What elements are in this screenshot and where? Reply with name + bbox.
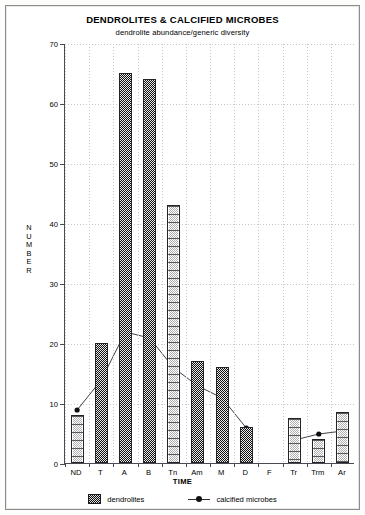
y-axis-title: NUMBER [24,224,34,276]
x-gridline [138,44,139,463]
bar-t [95,343,108,463]
x-gridline [210,44,211,463]
y-axis-tick-label: 60 [36,100,58,109]
bar-tr [288,418,301,463]
y-axis-tick-label: 0 [36,460,58,469]
y-axis-tick-labels: 010203040506070 [34,44,58,464]
x-axis-tick [283,463,284,467]
legend-item-calcified-microbes: calcified microbes [188,495,276,504]
bar-rules [337,413,348,462]
bar-b [143,79,156,463]
x-axis-tick [186,463,187,467]
x-axis-tick [331,463,332,467]
bar-tn [167,205,180,463]
bar-ar [336,412,349,463]
bar-rules [72,416,83,462]
line-point-nd [75,407,80,412]
x-axis-tick [258,463,259,467]
y-axis-tick-label: 40 [36,220,58,229]
chart-subtitle: dendrolite abundance/generic diversity [6,28,359,37]
bar-rules [313,440,324,462]
x-gridline [283,44,284,463]
bar-am [191,361,204,463]
chart-title: DENDROLITES & CALCIFIED MICROBES [6,14,359,25]
x-axis-tick [307,463,308,467]
y-axis-tick-label: 30 [36,280,58,289]
legend-label-dendrolites: dendrolites [107,495,144,504]
plot-area [64,44,354,464]
chart-legend: dendrolites calcified microbes [6,494,359,504]
y-axis-tick-label: 20 [36,340,58,349]
x-gridline [258,44,259,463]
x-axis-tick [113,463,114,467]
title-block: DENDROLITES & CALCIFIED MICROBES dendrol… [6,14,359,37]
line-point-icon [188,495,210,503]
y-axis-title-char: R [24,267,34,276]
bar-swatch-icon [88,494,101,504]
x-axis-tick [210,463,211,467]
x-gridline [307,44,308,463]
bar-trm [312,439,325,463]
chart-page: DENDROLITES & CALCIFIED MICROBES dendrol… [0,0,365,515]
bar-a [119,73,132,463]
line-point-trm [316,431,321,436]
legend-label-calcified-microbes: calcified microbes [216,495,276,504]
x-gridline [234,44,235,463]
x-gridline [331,44,332,463]
x-axis-tick [65,463,66,467]
x-gridline [113,44,114,463]
x-axis-tick [89,463,90,467]
bar-nd [71,415,84,463]
x-axis-tick [234,463,235,467]
y-axis-tick-label: 10 [36,400,58,409]
y-axis-tick-label: 50 [36,160,58,169]
bar-rules [168,206,179,462]
x-gridline [162,44,163,463]
chart-frame: DENDROLITES & CALCIFIED MICROBES dendrol… [5,5,360,510]
x-gridline [186,44,187,463]
x-gridline [89,44,90,463]
y-axis-tick-label: 70 [36,40,58,49]
x-axis-tick [162,463,163,467]
bar-d [240,427,253,463]
legend-item-dendrolites: dendrolites [88,494,144,504]
bar-rules [289,419,300,462]
x-axis-title: TIME [6,477,359,486]
x-gridline [65,44,66,463]
x-axis-tick [138,463,139,467]
bar-m [216,367,229,463]
x-axis-tick-label: Ar [327,468,357,477]
